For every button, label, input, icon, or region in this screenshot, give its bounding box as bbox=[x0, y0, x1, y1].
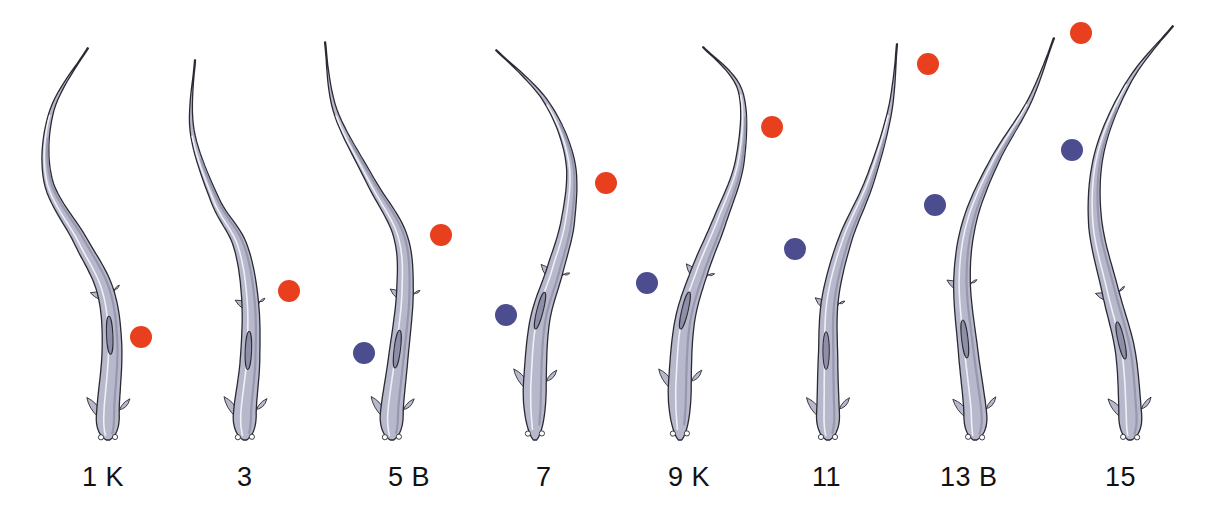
fish-body bbox=[189, 60, 260, 440]
eye-icon bbox=[1135, 435, 1140, 440]
fish-posture-figure bbox=[0, 0, 1207, 517]
eye-icon bbox=[966, 434, 971, 439]
frame-label: 7 bbox=[536, 462, 552, 493]
eye-icon bbox=[235, 435, 240, 440]
red-dot-marker bbox=[917, 53, 939, 75]
red-dot-marker bbox=[761, 116, 783, 138]
eye-icon bbox=[539, 431, 544, 436]
frame-label: 11 bbox=[812, 462, 841, 493]
frame-label: 9 K bbox=[668, 462, 710, 493]
eye-icon bbox=[980, 435, 985, 440]
blue-dot-marker bbox=[495, 304, 517, 326]
fish-frame-9 bbox=[659, 47, 747, 440]
eye-icon bbox=[1121, 434, 1126, 439]
eye-icon bbox=[249, 434, 254, 439]
red-dot-marker bbox=[430, 224, 452, 246]
eye-icon bbox=[382, 435, 387, 440]
eye-icon bbox=[396, 434, 401, 439]
fish-frame-3 bbox=[189, 60, 267, 440]
eye-icon bbox=[832, 434, 837, 439]
eye-icon bbox=[818, 434, 823, 439]
frame-label: 5 B bbox=[388, 462, 430, 493]
frame-label: 13 B bbox=[940, 462, 998, 493]
frame-label: 15 bbox=[1105, 462, 1136, 493]
fish-frame-13 bbox=[947, 38, 1055, 440]
red-dot-marker bbox=[1070, 22, 1092, 44]
eye-icon bbox=[525, 431, 530, 436]
fish-frame-7 bbox=[496, 50, 577, 440]
fish-body bbox=[42, 48, 122, 440]
blue-dot-marker bbox=[353, 342, 375, 364]
blue-dot-marker bbox=[1061, 139, 1083, 161]
fish-frame-5 bbox=[325, 42, 421, 440]
fish-body bbox=[817, 44, 898, 440]
eye-icon bbox=[98, 435, 103, 440]
frame-label: 1 K bbox=[82, 462, 124, 493]
fish-frame-1 bbox=[42, 48, 130, 440]
fish-frame-11 bbox=[806, 44, 897, 440]
red-dot-marker bbox=[130, 326, 152, 348]
fish-body bbox=[496, 50, 577, 440]
eye-icon bbox=[684, 431, 689, 436]
red-dot-marker bbox=[278, 280, 300, 302]
red-dot-marker bbox=[595, 172, 617, 194]
blue-dot-marker bbox=[924, 194, 946, 216]
eye-icon bbox=[670, 431, 675, 436]
organ-outline bbox=[823, 332, 829, 370]
fish-frame-15 bbox=[1088, 26, 1173, 440]
blue-dot-marker bbox=[784, 238, 806, 260]
frame-label: 3 bbox=[237, 462, 253, 493]
blue-dot-marker bbox=[636, 272, 658, 294]
eye-icon bbox=[112, 434, 117, 439]
